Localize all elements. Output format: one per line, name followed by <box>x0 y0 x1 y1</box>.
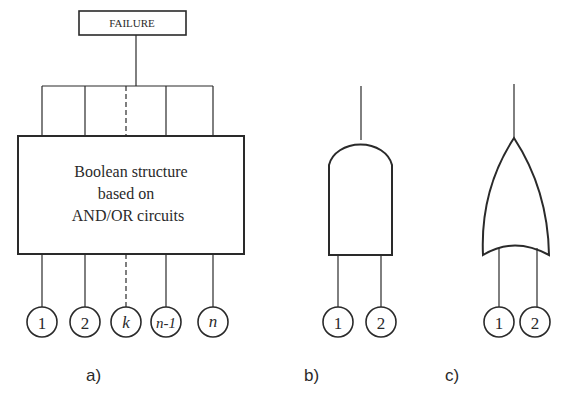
and-input-label-1: 1 <box>334 314 343 333</box>
caption-c: c) <box>445 366 459 385</box>
and-input-label-2: 2 <box>377 314 386 333</box>
input-label-1: 1 <box>38 314 47 333</box>
input-label-2: 2 <box>81 314 90 333</box>
caption-b: b) <box>304 366 319 385</box>
figure: FAILURE Boolean structure based on AND/O… <box>0 0 567 401</box>
and-gate-icon <box>329 144 392 255</box>
input-label-k: k <box>122 313 130 332</box>
main-box-line-3: AND/OR circuits <box>72 207 184 224</box>
input-label-n-1: n-1 <box>156 315 176 331</box>
main-box-line-1: Boolean structure <box>74 163 187 180</box>
failure-label: FAILURE <box>109 17 155 29</box>
caption-a: a) <box>86 366 101 385</box>
or-input-label-1: 1 <box>495 314 504 333</box>
or-gate-icon <box>483 138 549 255</box>
diagram-c <box>483 84 550 337</box>
input-label-n: n <box>209 312 218 331</box>
or-input-label-2: 2 <box>531 314 540 333</box>
diagram-b <box>323 86 396 337</box>
main-box-line-2: based on <box>98 185 154 202</box>
